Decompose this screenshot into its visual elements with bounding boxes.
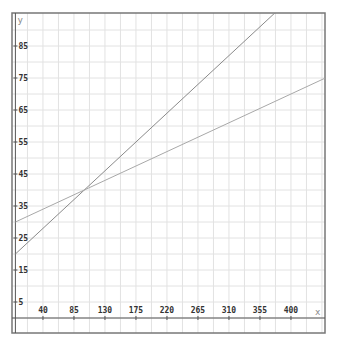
series-lines [15, 0, 324, 254]
tick-labels: 4085130175220265310355400515253545556575… [18, 42, 298, 315]
y-axis-label: y [17, 15, 23, 25]
line-chart: 4085130175220265310355400515253545556575… [0, 0, 342, 344]
y-tick-label: 5 [18, 298, 23, 307]
series-line-1 [15, 0, 324, 254]
series-line-2 [15, 78, 324, 222]
y-tick-label: 65 [18, 106, 28, 115]
y-tick-label: 75 [18, 74, 28, 83]
x-tick-label: 175 [129, 306, 144, 315]
y-tick-label: 25 [18, 234, 28, 243]
grid [12, 13, 325, 333]
x-tick-label: 310 [222, 306, 237, 315]
x-tick-label: 355 [253, 306, 268, 315]
x-tick-label: 40 [38, 306, 48, 315]
x-tick-label: 85 [69, 306, 79, 315]
x-tick-label: 265 [191, 306, 206, 315]
y-tick-label: 55 [18, 138, 28, 147]
x-axis-label: x [315, 307, 321, 317]
y-tick-label: 15 [18, 266, 28, 275]
x-tick-label: 400 [284, 306, 299, 315]
y-tick-label: 35 [18, 202, 28, 211]
x-tick-label: 220 [160, 306, 175, 315]
x-tick-label: 130 [98, 306, 113, 315]
y-tick-label: 85 [18, 42, 28, 51]
y-tick-label: 45 [18, 170, 28, 179]
